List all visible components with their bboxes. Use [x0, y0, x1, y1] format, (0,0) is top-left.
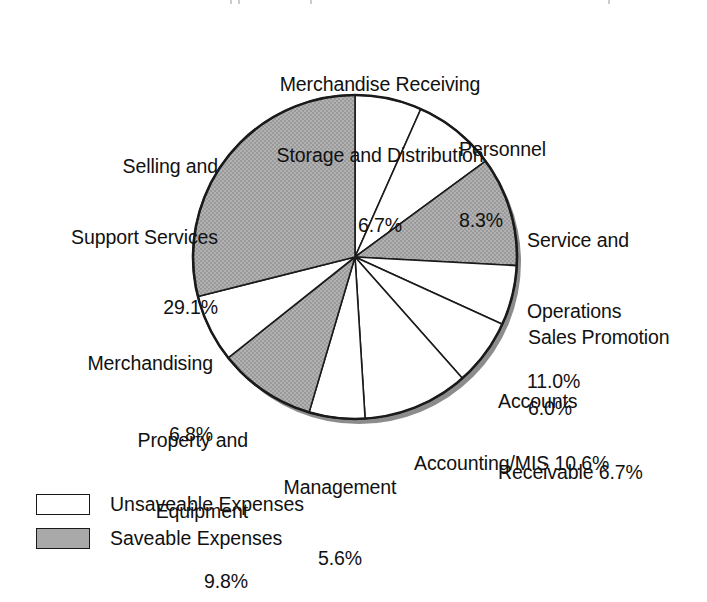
legend-swatch-saveable-icon — [36, 528, 90, 549]
slice-label-line: Support Services — [18, 226, 218, 250]
slice-label-line: Selling and — [18, 155, 218, 179]
slice-value: Accounting/MIS 10.6% — [414, 452, 674, 476]
slice-value: 6.8% — [38, 423, 213, 447]
pie-chart-figure: Merchandise Receiving Storage and Distri… — [0, 0, 707, 602]
slice-label-line: Service and — [527, 229, 702, 253]
legend-label: Saveable Expenses — [110, 527, 282, 550]
chart-legend: Unsaveable Expenses Saveable Expenses — [36, 489, 376, 557]
slice-value: 29.1% — [18, 296, 218, 320]
legend-item-unsaveable: Unsaveable Expenses — [36, 489, 376, 520]
legend-label: Unsaveable Expenses — [110, 493, 304, 516]
legend-item-saveable: Saveable Expenses — [36, 523, 376, 554]
slice-label-accounting-mis: Accounting/MIS 10.6% — [414, 405, 674, 523]
legend-swatch-unsaveable-icon — [36, 494, 90, 515]
slice-label-line: Personnel — [459, 138, 619, 162]
slice-label-selling-and-support-services: Selling and Support Services 29.1% — [18, 108, 218, 367]
slice-value: 9.8% — [78, 570, 248, 594]
